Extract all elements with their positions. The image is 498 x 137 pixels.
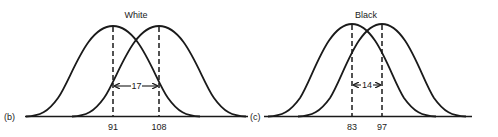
panel-c-right-mean-tick: 97 <box>377 122 387 132</box>
panel-b-label: (b) <box>4 112 15 122</box>
panel-c-label: (c) <box>250 112 261 122</box>
panel-c-title: Black <box>355 10 378 20</box>
panel-b-left-mean-tick: 91 <box>108 122 118 132</box>
overlapping-distributions-figure: White (b) 17 91 108 Black (c) 14 83 97 <box>0 0 498 137</box>
panel-b: White (b) 17 91 108 <box>4 10 248 132</box>
panel-c-left-mean-tick: 83 <box>347 122 357 132</box>
panel-b-difference-label: 17 <box>131 81 141 91</box>
panel-c: Black (c) 14 83 97 <box>250 10 472 132</box>
panel-b-title: White <box>124 10 147 20</box>
panel-b-right-mean-tick: 108 <box>151 122 166 132</box>
panel-c-difference-label: 14 <box>362 80 372 90</box>
